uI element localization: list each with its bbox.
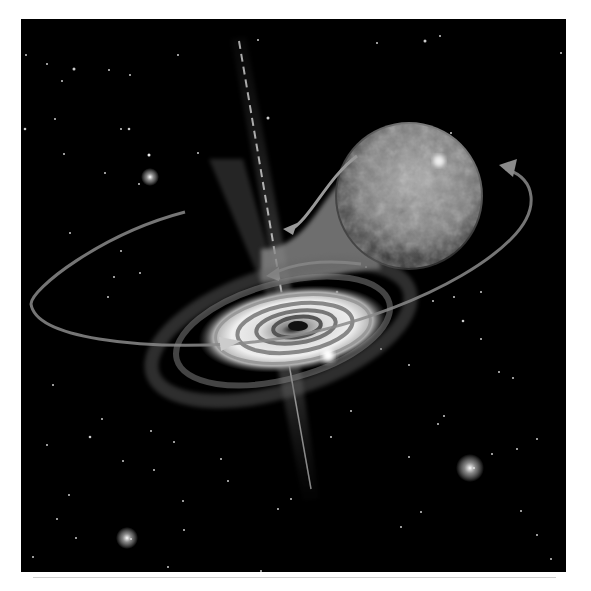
orbit-arrowhead-icon xyxy=(499,159,517,177)
illustration-frame xyxy=(21,19,566,572)
companion-star xyxy=(261,122,483,281)
black-hole-illustration xyxy=(21,19,566,572)
caption-divider xyxy=(33,577,556,578)
